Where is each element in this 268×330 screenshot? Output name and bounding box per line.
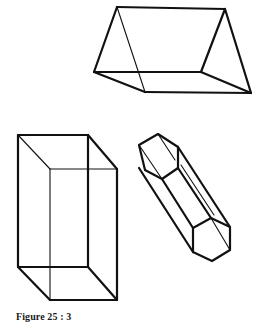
triangular-prism xyxy=(94,7,251,93)
figure-page: Figure 25 : 3 xyxy=(0,0,268,330)
figure-caption: Figure 25 : 3 xyxy=(16,311,71,322)
rectangular-box xyxy=(18,135,117,300)
figure-drawing xyxy=(0,0,268,330)
hexagonal-prism xyxy=(139,134,230,261)
